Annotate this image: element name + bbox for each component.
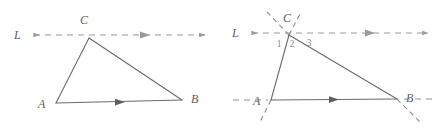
right-side-AB-direction-arrow: [329, 96, 339, 103]
figure-canvas: L C A B: [0, 0, 445, 130]
left-vertex-label-C: C: [80, 13, 89, 27]
left-side-AB-direction-arrow: [115, 99, 125, 106]
right-angle-label-2: 2: [290, 39, 295, 49]
right-line-label-L: L: [231, 26, 239, 40]
left-parallel-line-L: [34, 32, 205, 39]
right-panel: L C A B 1 2 3: [231, 11, 437, 124]
right-parallel-line-L: [252, 30, 428, 37]
left-vertex-label-B: B: [191, 92, 199, 106]
right-angle-label-3: 3: [307, 38, 312, 48]
left-line-label-L: L: [13, 28, 21, 42]
right-vertex-label-A: A: [252, 94, 261, 108]
left-side-CB: [89, 38, 182, 100]
right-side-CB: [289, 35, 397, 99]
right-angle-label-1: 1: [277, 39, 282, 49]
right-line-L-mid-arrowhead: [365, 30, 375, 37]
left-line-L-mid-arrowhead: [140, 32, 150, 39]
right-vertex-label-B: B: [406, 91, 414, 105]
left-vertex-label-A: A: [37, 97, 46, 111]
geometry-figure: L C A B: [0, 0, 445, 130]
left-panel: L C A B: [13, 13, 205, 111]
right-vertex-label-C: C: [283, 11, 292, 25]
left-side-CA: [56, 38, 89, 103]
right-ext-CA-below-A: [259, 100, 271, 124]
